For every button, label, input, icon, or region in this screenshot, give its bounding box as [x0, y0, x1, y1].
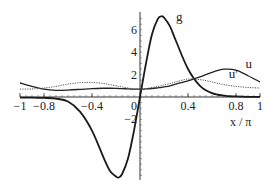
x-tick-label: −0.4 — [81, 99, 103, 113]
curve-label: g — [176, 9, 183, 24]
y-tick-label: 6 — [131, 23, 137, 37]
line-chart: −1−0.8−0.400.40.81−2246 guu' x / π — [0, 0, 277, 191]
x-axis-label: x / π — [230, 115, 251, 129]
x-tick-label: −0.8 — [33, 99, 55, 113]
x-tick-label: 0.8 — [229, 99, 244, 113]
x-tick-label: 0.4 — [181, 99, 196, 113]
labels: guu' — [176, 9, 253, 81]
curve-label: u' — [229, 66, 238, 81]
x-tick-label: 0 — [131, 99, 137, 113]
curve-label: u — [246, 56, 253, 71]
y-tick-label: 4 — [131, 45, 137, 59]
x-tick-label: −1 — [14, 99, 27, 113]
y-tick-label: 2 — [131, 68, 137, 82]
x-tick-label: 1 — [257, 99, 263, 113]
